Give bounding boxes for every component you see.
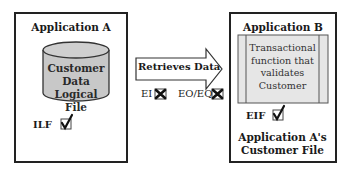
retrieves-data-label: Retrieves Data (138, 61, 220, 72)
data-store-line-1: Customer (43, 62, 109, 75)
process-line-2: function that (246, 55, 319, 68)
application-a-customer-file-caption: Application A's Customer File (229, 131, 336, 157)
ei-cross-mark-icon (155, 89, 166, 99)
process-line-4: Customer (246, 80, 319, 93)
ilf-label: ILF (33, 119, 52, 130)
eo-eq-label: EO/EQ (178, 88, 212, 99)
eif-checkbox-icon (273, 106, 284, 120)
eo-eq-cross-mark-icon (212, 89, 223, 99)
caption-line-1: Application A's (229, 131, 336, 144)
data-store-line-3: Logical File (43, 88, 109, 114)
data-store-line-2: Data (43, 75, 109, 88)
ei-label: EI (141, 88, 152, 99)
eif-label: EIF (246, 110, 265, 121)
transactional-function-label: Transactional function that validates Cu… (246, 42, 319, 92)
caption-line-2: Customer File (229, 144, 336, 157)
process-line-3: validates (246, 67, 319, 80)
customer-data-logical-file-label: Customer Data Logical File (43, 62, 109, 114)
ilf-checkbox-icon (61, 115, 72, 129)
process-line-1: Transactional (246, 42, 319, 55)
